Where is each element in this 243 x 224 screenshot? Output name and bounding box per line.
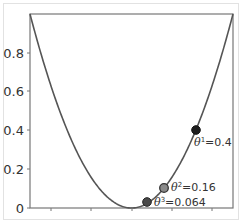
chart: 0 0.2 0.4 0.6 0.8 θ1=0.4 θ2=0.16 θ3=0.06…	[0, 0, 243, 224]
y-tick-label-0.8: 0.8	[3, 46, 24, 61]
annotation-theta-1: θ1=0.4	[194, 136, 232, 149]
y-tick-label-0.2: 0.2	[3, 162, 24, 177]
y-tick-labels: 0 0.2 0.4 0.6 0.8	[3, 46, 24, 216]
point-theta-1	[192, 126, 201, 135]
point-theta-3	[143, 198, 152, 207]
annotation-theta-2: θ2=0.16	[171, 181, 216, 194]
y-tick-label-0.4: 0.4	[3, 123, 24, 138]
annotation-theta-3: θ3=0.064	[154, 196, 206, 209]
y-tick-label-0: 0	[16, 201, 24, 216]
point-theta-2	[160, 184, 169, 193]
parabola-curve	[30, 14, 233, 208]
y-tick-label-0.6: 0.6	[3, 84, 24, 99]
